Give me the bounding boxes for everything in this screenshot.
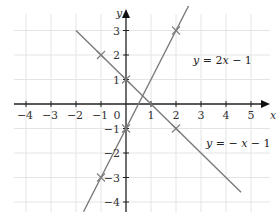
- x-tick-label: −2: [67, 109, 83, 122]
- x-tick-label: −3: [42, 109, 58, 122]
- y-tick-label: −4: [104, 196, 120, 209]
- y-tick-label: 2: [113, 49, 120, 62]
- x-tick-label: 5: [248, 109, 255, 122]
- coordinate-graph: −4−3−2−112345321−1−2−3−40 y x y = 2x − 1…: [0, 0, 280, 217]
- tick-labels: −4−3−2−112345321−1−2−3−40: [17, 25, 255, 210]
- y-tick-label: −3: [104, 172, 120, 185]
- y-tick-label: −1: [104, 123, 120, 136]
- x-tick-label: 3: [198, 109, 205, 122]
- y-tick-label: −2: [104, 147, 120, 160]
- y-axis-arrow-icon: [122, 9, 130, 18]
- x-axis-arrow-icon: [261, 100, 270, 108]
- y-tick-label: 1: [113, 74, 120, 87]
- x-tick-label: −1: [92, 109, 108, 122]
- x-tick-label: 2: [173, 109, 180, 122]
- x-axis-label: x: [270, 109, 277, 122]
- x-tick-label: −4: [17, 109, 33, 122]
- y-axis-label: y: [115, 7, 123, 20]
- x-tick-label: 1: [148, 109, 155, 122]
- equation-label-line1: y = 2x − 1: [192, 54, 252, 67]
- origin-label: 0: [114, 109, 121, 122]
- equation-label-line2: y = − x − 1: [205, 137, 271, 150]
- y-tick-label: 3: [113, 25, 120, 38]
- x-tick-label: 4: [223, 109, 230, 122]
